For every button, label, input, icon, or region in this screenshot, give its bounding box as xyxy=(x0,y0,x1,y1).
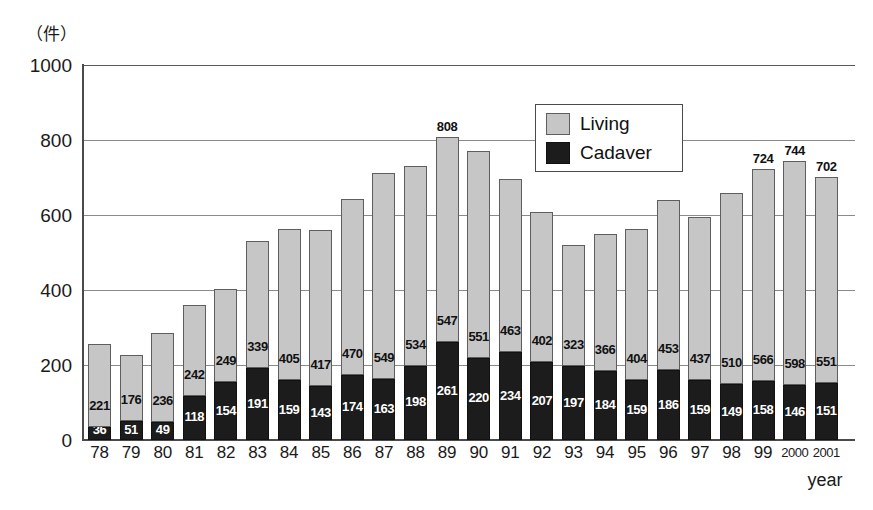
legend-item-living: Living xyxy=(546,111,630,137)
x-axis-title: year xyxy=(790,470,860,491)
living-swatch-icon xyxy=(546,113,570,135)
stacked-bar-chart: （件） 02004006008001000 362215117649236118… xyxy=(0,0,873,510)
legend-label-living: Living xyxy=(580,114,630,134)
legend: Living Cadaver xyxy=(535,104,683,172)
legend-item-cadaver: Cadaver xyxy=(546,140,652,166)
cadaver-swatch-icon xyxy=(546,142,570,164)
x-tick-label-2001: 2001 xyxy=(808,444,845,462)
legend-label-cadaver: Cadaver xyxy=(580,143,652,163)
x-axis-ticks: 7879808182838485868788899091929394959697… xyxy=(0,0,873,510)
